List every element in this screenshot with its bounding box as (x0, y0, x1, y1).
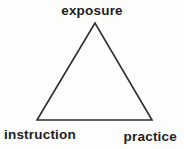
triangle-diagram: exposure instruction practice (0, 0, 184, 149)
vertex-label-instruction: instruction (4, 128, 76, 142)
vertex-label-practice: practice (124, 130, 177, 144)
triangle-outline (37, 23, 152, 120)
